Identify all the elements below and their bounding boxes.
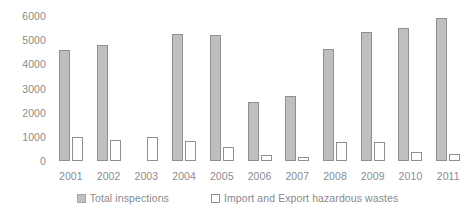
y-axis-tick-label: 3000 (22, 83, 46, 94)
x-axis-tick-label: 2003 (127, 166, 165, 186)
bar-group (354, 16, 392, 161)
bar-import-export (72, 137, 83, 161)
bar-group (241, 16, 279, 161)
legend-item-label: Import and Export hazardous wastes (224, 192, 398, 204)
x-axis-tick-label: 2006 (241, 166, 279, 186)
bar-total-inspections (97, 45, 108, 161)
bar-import-export (147, 137, 158, 161)
filled-gray-swatch (77, 194, 86, 203)
bar-import-export (411, 152, 422, 161)
y-axis-tick-label: 1000 (22, 131, 46, 142)
bar-group (52, 16, 90, 161)
x-axis-tick-label: 2007 (278, 166, 316, 186)
bar-total-inspections (59, 50, 70, 161)
y-axis-tick-label: 5000 (22, 35, 46, 46)
outlined-white-swatch (211, 194, 220, 203)
bar-import-export (110, 140, 121, 161)
bar-total-inspections (172, 34, 183, 161)
legend-item[interactable]: Total inspections (77, 192, 169, 204)
x-axis-tick-label: 2009 (354, 166, 392, 186)
bar-total-inspections (248, 102, 259, 161)
bar-group (203, 16, 241, 161)
x-axis-tick-label: 2008 (316, 166, 354, 186)
bar-import-export (298, 157, 309, 161)
y-axis-tick-label: 0 (40, 156, 46, 167)
bar-total-inspections (436, 18, 447, 161)
bar-import-export (223, 147, 234, 162)
y-axis: 0100020003000400050006000 (0, 0, 52, 180)
bar-total-inspections (398, 28, 409, 161)
bar-import-export (261, 155, 272, 161)
bar-group (429, 16, 467, 161)
bar-group (392, 16, 430, 161)
bar-group (165, 16, 203, 161)
bar-group (90, 16, 128, 161)
legend-item-label: Total inspections (90, 192, 169, 204)
bar-import-export (449, 154, 460, 161)
x-axis-tick-label: 2005 (203, 166, 241, 186)
x-axis-tick-label: 2011 (429, 166, 467, 186)
chart-legend: Total inspectionsImport and Export hazar… (0, 192, 475, 204)
bar-groups (52, 16, 467, 161)
x-axis-tick-label: 2004 (165, 166, 203, 186)
bar-group (127, 16, 165, 161)
bar-group (278, 16, 316, 161)
bar-total-inspections (323, 49, 334, 161)
y-axis-tick-label: 4000 (22, 59, 46, 70)
y-axis-tick-label: 2000 (22, 107, 46, 118)
legend-item[interactable]: Import and Export hazardous wastes (211, 192, 398, 204)
x-axis-tick-label: 2010 (392, 166, 430, 186)
bar-import-export (336, 142, 347, 161)
x-axis-tick-label: 2002 (90, 166, 128, 186)
bar-import-export (185, 141, 196, 161)
x-axis: 2001200220032004200520062007200820092010… (52, 166, 467, 186)
bar-total-inspections (210, 35, 221, 161)
x-axis-tick-label: 2001 (52, 166, 90, 186)
bar-group (316, 16, 354, 161)
plot-area (52, 16, 467, 161)
y-axis-tick-label: 6000 (22, 11, 46, 22)
bar-total-inspections (361, 32, 372, 161)
bar-total-inspections (285, 96, 296, 161)
bar-import-export (374, 142, 385, 161)
bar-chart: 0100020003000400050006000 20012002200320… (0, 0, 475, 219)
